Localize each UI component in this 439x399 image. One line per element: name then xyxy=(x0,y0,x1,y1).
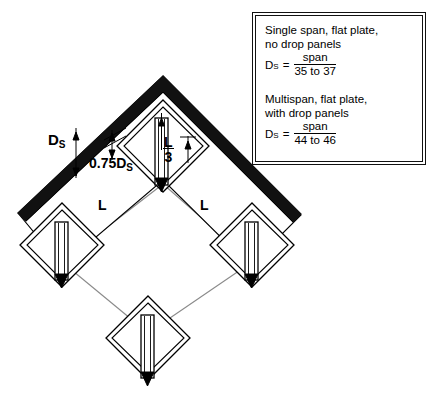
formula1-equals: = xyxy=(283,59,290,71)
label-slab-thickness: DS xyxy=(48,131,66,148)
label-drop-panel-extent: L 3 xyxy=(163,136,174,164)
label-drop-panel-thickness-subscript: S xyxy=(126,162,133,173)
formula2-equals: = xyxy=(283,128,290,140)
label-drop-panel-extent-denominator: 3 xyxy=(163,149,174,164)
formula2-fraction: span 44 to 46 xyxy=(294,120,336,147)
diagram-canvas: DS 0.75DS L L L 3 Single span, flat plat… xyxy=(0,0,439,399)
formula2-symbol: D xyxy=(265,128,273,140)
formula2-subscript: S xyxy=(273,130,278,142)
column-bottom xyxy=(141,315,154,386)
note-spacer xyxy=(265,78,418,93)
column-left xyxy=(55,222,68,288)
formula-single-span: DS = span 35 to 37 xyxy=(265,51,418,78)
formula1-fraction: span 35 to 37 xyxy=(294,51,336,78)
formula1-symbol: D xyxy=(265,59,273,71)
formula1-numerator: span xyxy=(294,51,336,65)
formula2-denominator: 44 to 46 xyxy=(294,134,336,147)
dimension-slab-thickness xyxy=(73,128,79,178)
label-drop-panel-extent-numerator: L xyxy=(163,136,174,149)
label-drop-panel-thickness: 0.75DS xyxy=(89,155,133,171)
note-block2-line1: Multispan, flat plate, xyxy=(265,93,418,107)
formula-note-box: Single span, flat plate, no drop panels … xyxy=(252,12,426,165)
formula1-subscript: S xyxy=(273,61,278,73)
note-block1-line2: no drop panels xyxy=(265,38,418,52)
formula-multispan: DS = span 44 to 46 xyxy=(265,120,418,147)
note-block1-line1: Single span, flat plate, xyxy=(265,24,418,38)
label-slab-thickness-subscript: S xyxy=(59,139,66,150)
label-span-right: L xyxy=(200,197,209,213)
formula1-denominator: 35 to 37 xyxy=(294,65,336,78)
formula2-numerator: span xyxy=(294,120,336,134)
note-block2-line2: with drop panels xyxy=(265,107,418,121)
label-span-left: L xyxy=(98,197,107,213)
column-right xyxy=(245,222,258,288)
formula-note-box-inner-border: Single span, flat plate, no drop panels … xyxy=(255,15,423,162)
